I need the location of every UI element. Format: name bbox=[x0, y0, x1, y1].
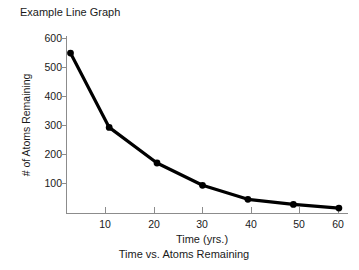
data-point-marker bbox=[106, 124, 113, 131]
data-point-marker bbox=[154, 160, 161, 167]
plot-area bbox=[0, 0, 359, 270]
line-chart-figure: Example Line Graph # of Atoms Remaining … bbox=[0, 0, 359, 270]
data-point-marker bbox=[199, 182, 206, 189]
x-axis-title: Time (yrs.) bbox=[66, 233, 338, 246]
data-point-marker bbox=[290, 201, 297, 208]
data-point-marker bbox=[67, 50, 74, 57]
data-point-marker bbox=[245, 196, 252, 203]
figure-caption: Time vs. Atoms Remaining bbox=[30, 248, 338, 261]
data-point-markers bbox=[67, 50, 342, 212]
x-axis-ticks bbox=[106, 207, 339, 213]
y-axis-ticks bbox=[61, 39, 66, 184]
data-point-marker bbox=[336, 205, 343, 212]
